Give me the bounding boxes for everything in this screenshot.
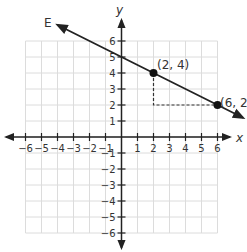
x-tick-label: 4 [182,143,188,154]
x-tick-label: 5 [198,143,204,154]
y-axis-label: y [115,3,124,17]
x-tick-label: 3 [166,143,172,154]
y-tick-label: 1 [109,116,115,127]
x-axis-label: x [235,131,244,145]
y-tick-label: −1 [101,148,116,159]
line-e-label: E [44,16,52,30]
x-tick-label: 6 [214,143,220,154]
x-tick-label: −5 [34,143,49,154]
y-tick-label: 3 [109,84,115,95]
point-label-6-2: (6, 2 [220,96,247,110]
y-tick-label: −3 [101,180,116,191]
y-tick-label: 6 [109,36,115,47]
x-tick-label: −6 [18,143,33,154]
y-tick-label: −5 [101,212,116,223]
y-tick-label: 4 [109,68,115,79]
x-tick-label: −4 [50,143,65,154]
x-tick-label: −2 [82,143,97,154]
axes [6,20,230,248]
coordinate-graph: −6−5−4−3−2−1123456654321−1−2−3−4−5−6 x y… [0,0,247,252]
x-tick-label: 2 [150,143,156,154]
x-tick-label: 1 [134,143,140,154]
y-tick-label: −2 [101,164,116,175]
x-tick-label: −3 [66,143,81,154]
y-tick-label: −6 [101,228,116,239]
y-tick-label: −4 [101,196,116,207]
y-tick-label: 2 [109,100,115,111]
point-label-2-4: (2, 4) [157,58,189,72]
